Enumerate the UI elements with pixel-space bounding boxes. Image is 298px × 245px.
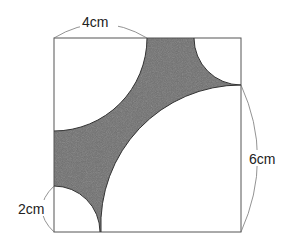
geometry-diagram: 4cm 6cm 2cm — [0, 0, 298, 245]
shaded-region — [54, 38, 241, 232]
label-right-6cm: 6cm — [249, 151, 275, 167]
label-top-4cm: 4cm — [82, 14, 108, 30]
label-left-2cm: 2cm — [18, 201, 44, 217]
